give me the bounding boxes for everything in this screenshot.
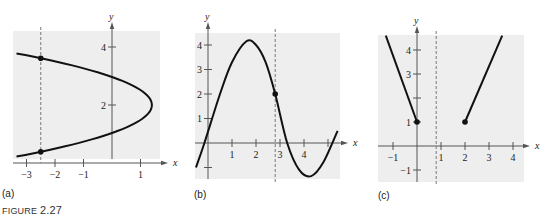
panel-label-b: (b) bbox=[194, 189, 206, 200]
y-tick-label: 1 bbox=[197, 113, 202, 124]
figure-caption-number: 2.27 bbox=[40, 204, 62, 216]
y-tick-label: 4 bbox=[197, 40, 202, 51]
x-tick-label: −3 bbox=[21, 169, 32, 180]
y-axis-label: y bbox=[413, 15, 419, 26]
x-tick-label: −2 bbox=[50, 169, 61, 180]
y-tick-label: 4 bbox=[101, 42, 106, 53]
y-axis-label: y bbox=[204, 11, 210, 22]
y-tick-label: 2 bbox=[101, 100, 106, 111]
x-tick-label: 2 bbox=[254, 149, 259, 160]
x-tick-label: −1 bbox=[388, 152, 399, 163]
y-axis-arrow-icon bbox=[415, 26, 419, 33]
x-tick-label: 2 bbox=[463, 152, 468, 163]
x-tick-label: 4 bbox=[511, 152, 516, 163]
x-tick-label: 4 bbox=[302, 149, 307, 160]
intersection-point bbox=[38, 56, 44, 62]
y-tick-label: 1 bbox=[406, 117, 411, 128]
y-axis-arrow-icon bbox=[206, 22, 210, 29]
x-axis-label: x bbox=[534, 140, 540, 151]
intersection-point bbox=[462, 119, 468, 125]
intersection-point bbox=[414, 119, 420, 125]
figure-2-27-graphs: xy−3−2−1124xy12341234xy−11234−1134 bbox=[0, 0, 553, 217]
x-axis-label: x bbox=[172, 157, 178, 168]
x-axis-arrow-icon bbox=[341, 141, 348, 145]
y-tick-label: 3 bbox=[406, 69, 411, 80]
x-tick-label: 3 bbox=[487, 152, 492, 163]
x-tick-label: −1 bbox=[78, 169, 89, 180]
plot-background bbox=[378, 35, 524, 182]
y-axis-label: y bbox=[108, 11, 114, 22]
figure-caption: FIGURE 2.27 bbox=[2, 204, 62, 216]
graph-panel-a: xy−3−2−1124 bbox=[13, 11, 178, 180]
y-tick-label: 3 bbox=[197, 64, 202, 75]
x-axis-arrow-icon bbox=[161, 161, 168, 165]
x-tick-label: 1 bbox=[230, 149, 235, 160]
panel-label-a: (a) bbox=[2, 188, 14, 199]
x-tick-label: 1 bbox=[439, 152, 444, 163]
x-axis-arrow-icon bbox=[523, 144, 530, 148]
y-tick-label: 2 bbox=[197, 89, 202, 100]
panel-label-c: (c) bbox=[378, 190, 390, 201]
graph-panel-c: xy−11234−1134 bbox=[378, 15, 540, 186]
graph-panel-b: xy12341234 bbox=[195, 11, 358, 183]
intersection-point bbox=[272, 91, 278, 97]
x-tick-label: 1 bbox=[138, 169, 143, 180]
y-tick-label: −1 bbox=[400, 165, 411, 176]
intersection-point bbox=[38, 149, 44, 155]
y-tick-label: 4 bbox=[406, 45, 411, 56]
x-tick-label: 3 bbox=[278, 149, 283, 160]
figure-caption-prefix: FIGURE bbox=[2, 206, 40, 216]
y-axis-arrow-icon bbox=[110, 22, 114, 29]
x-axis-label: x bbox=[352, 137, 358, 148]
